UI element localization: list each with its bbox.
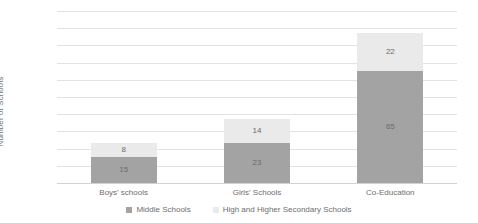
bar-segment[interactable]: 15 [91,157,157,183]
bar-segment[interactable]: 14 [224,119,290,143]
bar-value-label: 8 [121,146,125,154]
x-axis-label: Boys' schools [99,188,148,197]
legend-swatch-icon [213,207,219,213]
x-axis-label: Co-Education [366,188,414,197]
gridline [57,183,457,184]
bar-group[interactable]: 2265 [357,11,423,183]
stacked-bar-chart: Number of Schools 1009080706050403020100… [0,0,478,223]
bar-segment[interactable]: 23 [224,143,290,183]
bar-segment[interactable]: 22 [357,33,423,71]
bar-stack: 1423 [224,119,290,183]
bar-value-label: 23 [253,159,262,167]
legend-swatch-icon [126,207,132,213]
bar-segment[interactable]: 8 [91,143,157,157]
bar-value-label: 15 [119,166,128,174]
bar-value-label: 14 [253,127,262,135]
bar-value-label: 22 [386,48,395,56]
bar-stack: 815 [91,143,157,183]
y-axis-title: Number of Schools [0,0,38,223]
chart-legend: Middle SchoolsHigh and Higher Secondary … [0,205,478,214]
x-axis-label: Girls' Schools [233,188,282,197]
legend-item[interactable]: Middle Schools [126,205,190,214]
bar-stack: 2265 [357,33,423,183]
legend-label: High and Higher Secondary Schools [223,205,352,214]
bar-group[interactable]: 1423 [224,11,290,183]
plot-area: 1009080706050403020100 81514232265 [57,11,457,183]
bars-layer: 81514232265 [57,11,457,183]
legend-label: Middle Schools [136,205,190,214]
legend-item[interactable]: High and Higher Secondary Schools [213,205,352,214]
bar-group[interactable]: 815 [91,11,157,183]
bar-value-label: 65 [386,123,395,131]
bar-segment[interactable]: 65 [357,71,423,183]
